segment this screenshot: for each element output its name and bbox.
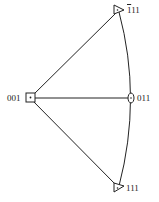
label-bar111-rest: 11: [131, 5, 140, 15]
node-011-ellipse-icon: [128, 93, 134, 103]
label-111: 111: [126, 184, 139, 193]
edge-001-bar111: [30, 12, 117, 98]
label-001: 001: [7, 94, 21, 103]
node-111-triangle-icon: [114, 183, 124, 192]
label-bar111: 111: [127, 6, 140, 15]
diagram-canvas: [0, 0, 159, 202]
edge-001-111: [30, 98, 117, 186]
label-011: 011: [137, 94, 150, 103]
node-001-square-icon: [26, 93, 35, 102]
